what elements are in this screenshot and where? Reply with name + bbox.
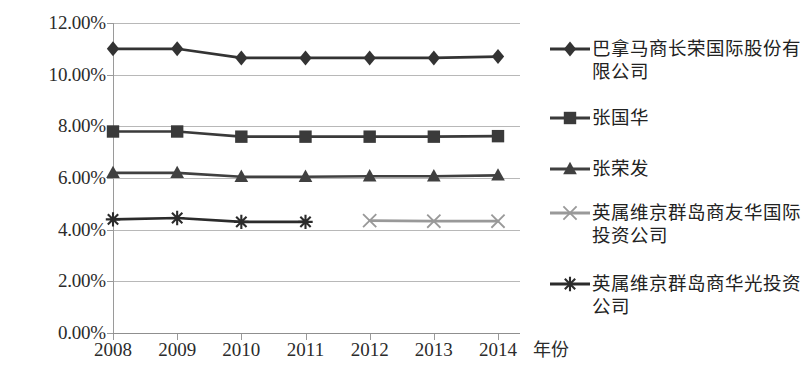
y-axis-tick-label: 8.00% xyxy=(2,116,106,135)
gridline xyxy=(113,230,520,231)
x-axis-tick-label: 2012 xyxy=(335,339,405,361)
legend-item[interactable]: 英属维京群岛商华光投资公司 xyxy=(548,273,806,319)
gridline xyxy=(113,23,520,24)
x-axis-line xyxy=(113,333,520,334)
gridline xyxy=(113,75,520,76)
x-axis-tick-label: 2013 xyxy=(399,339,469,361)
y-axis-line xyxy=(113,23,114,334)
x-axis-title: 年份 xyxy=(533,339,569,361)
x-axis-tick-label: 2011 xyxy=(271,339,341,361)
legend-item-label: 英属维京群岛商华光投资公司 xyxy=(592,273,806,319)
gridline xyxy=(113,178,520,179)
legend-item-label: 张国华 xyxy=(592,107,806,130)
legend-item[interactable]: 巴拿马商长荣国际股份有限公司 xyxy=(548,38,806,84)
asterisk-marker-icon xyxy=(548,273,592,295)
y-axis-tick-label: 2.00% xyxy=(2,271,106,290)
diamond-marker-icon xyxy=(548,38,592,60)
y-axis-tick-label: 12.00% xyxy=(2,13,106,32)
x-axis-tick-label: 2014 xyxy=(463,339,533,361)
legend-item[interactable]: 张荣发 xyxy=(548,158,806,181)
gridline xyxy=(113,126,520,127)
line-chart: 0.00%2.00%4.00%6.00%8.00%10.00%12.00% 20… xyxy=(0,0,811,366)
legend-item-label: 英属维京群岛商友华国际投资公司 xyxy=(592,202,806,248)
y-axis-tick-label: 6.00% xyxy=(2,168,106,187)
legend-item-label: 巴拿马商长荣国际股份有限公司 xyxy=(592,38,806,84)
plot-area xyxy=(113,23,520,333)
square-marker-icon xyxy=(548,107,592,129)
legend-item[interactable]: 张国华 xyxy=(548,107,806,130)
legend-item[interactable]: 英属维京群岛商友华国际投资公司 xyxy=(548,202,806,248)
x-axis-tick-label: 2009 xyxy=(142,339,212,361)
triangle-marker-icon xyxy=(548,158,592,180)
x-marker-icon xyxy=(548,202,592,224)
y-axis-tick-label: 4.00% xyxy=(2,220,106,239)
y-axis-tick-label: 10.00% xyxy=(2,65,106,84)
legend-item-label: 张荣发 xyxy=(592,158,806,181)
gridline xyxy=(113,281,520,282)
x-axis-tick-label: 2008 xyxy=(78,339,148,361)
x-axis-tick-label: 2010 xyxy=(206,339,276,361)
